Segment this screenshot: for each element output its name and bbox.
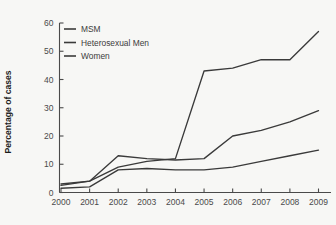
x-tick-label: 2003	[137, 197, 156, 207]
line-chart: Percentage of cases 0102030405060 200020…	[0, 0, 336, 225]
y-axis-title: Percentage of cases	[3, 70, 13, 153]
x-tick-label: 2004	[166, 197, 185, 207]
x-tick-label: 2005	[195, 197, 214, 207]
y-tick-label: 20	[44, 131, 54, 141]
x-tick-label: 2009	[309, 197, 328, 207]
x-tick-label: 2008	[280, 197, 299, 207]
y-tick-label: 10	[44, 159, 54, 169]
y-tick-label: 50	[44, 46, 54, 56]
x-tick-label: 2007	[252, 197, 271, 207]
chart-container: Percentage of cases 0102030405060 200020…	[0, 0, 336, 225]
y-tick-label: 60	[44, 18, 54, 28]
legend-label-heterosexual-men: Heterosexual Men	[81, 38, 149, 48]
x-tick-label: 2006	[223, 197, 242, 207]
y-tick-label: 40	[44, 75, 54, 85]
legend-label-women: Women	[81, 51, 110, 61]
y-tick-label: 30	[44, 103, 54, 113]
x-tick-label: 2000	[52, 197, 71, 207]
legend-label-msm: MSM	[81, 24, 101, 34]
x-tick-label: 2001	[80, 197, 99, 207]
x-tick-label: 2002	[109, 197, 128, 207]
